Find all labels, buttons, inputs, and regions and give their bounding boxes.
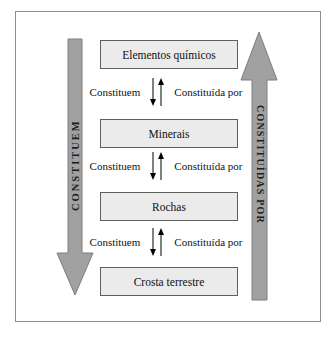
up-down-arrows-icon (147, 225, 167, 259)
box-rochas: Rochas (100, 192, 238, 221)
constituem-label: Constituem (90, 160, 141, 172)
connector-row: Constituem Constituída por (60, 75, 272, 109)
diagram-canvas: CONSTITUEM CONSTITUÍDAS POR Elementos qu… (0, 0, 336, 342)
constituida-por-label: Constituída por (174, 236, 242, 248)
box-label: Crosta terrestre (134, 276, 205, 288)
constituida-por-label: Constituída por (174, 160, 242, 172)
box-label: Minerais (149, 128, 190, 140)
box-label: Elementos químicos (122, 49, 216, 61)
connector-row: Constituem Constituída por (60, 225, 272, 259)
box-label: Rochas (152, 201, 186, 213)
box-minerais: Minerais (100, 119, 238, 148)
constituem-label: Constituem (90, 86, 141, 98)
box-crosta-terrestre: Crosta terrestre (100, 267, 238, 296)
up-down-arrows-icon (147, 75, 167, 109)
connector-row: Constituem Constituída por (60, 149, 272, 183)
up-down-arrows-icon (147, 149, 167, 183)
constituem-label: Constituem (90, 236, 141, 248)
box-elementos-quimicos: Elementos químicos (100, 40, 238, 69)
constituida-por-label: Constituída por (174, 86, 242, 98)
